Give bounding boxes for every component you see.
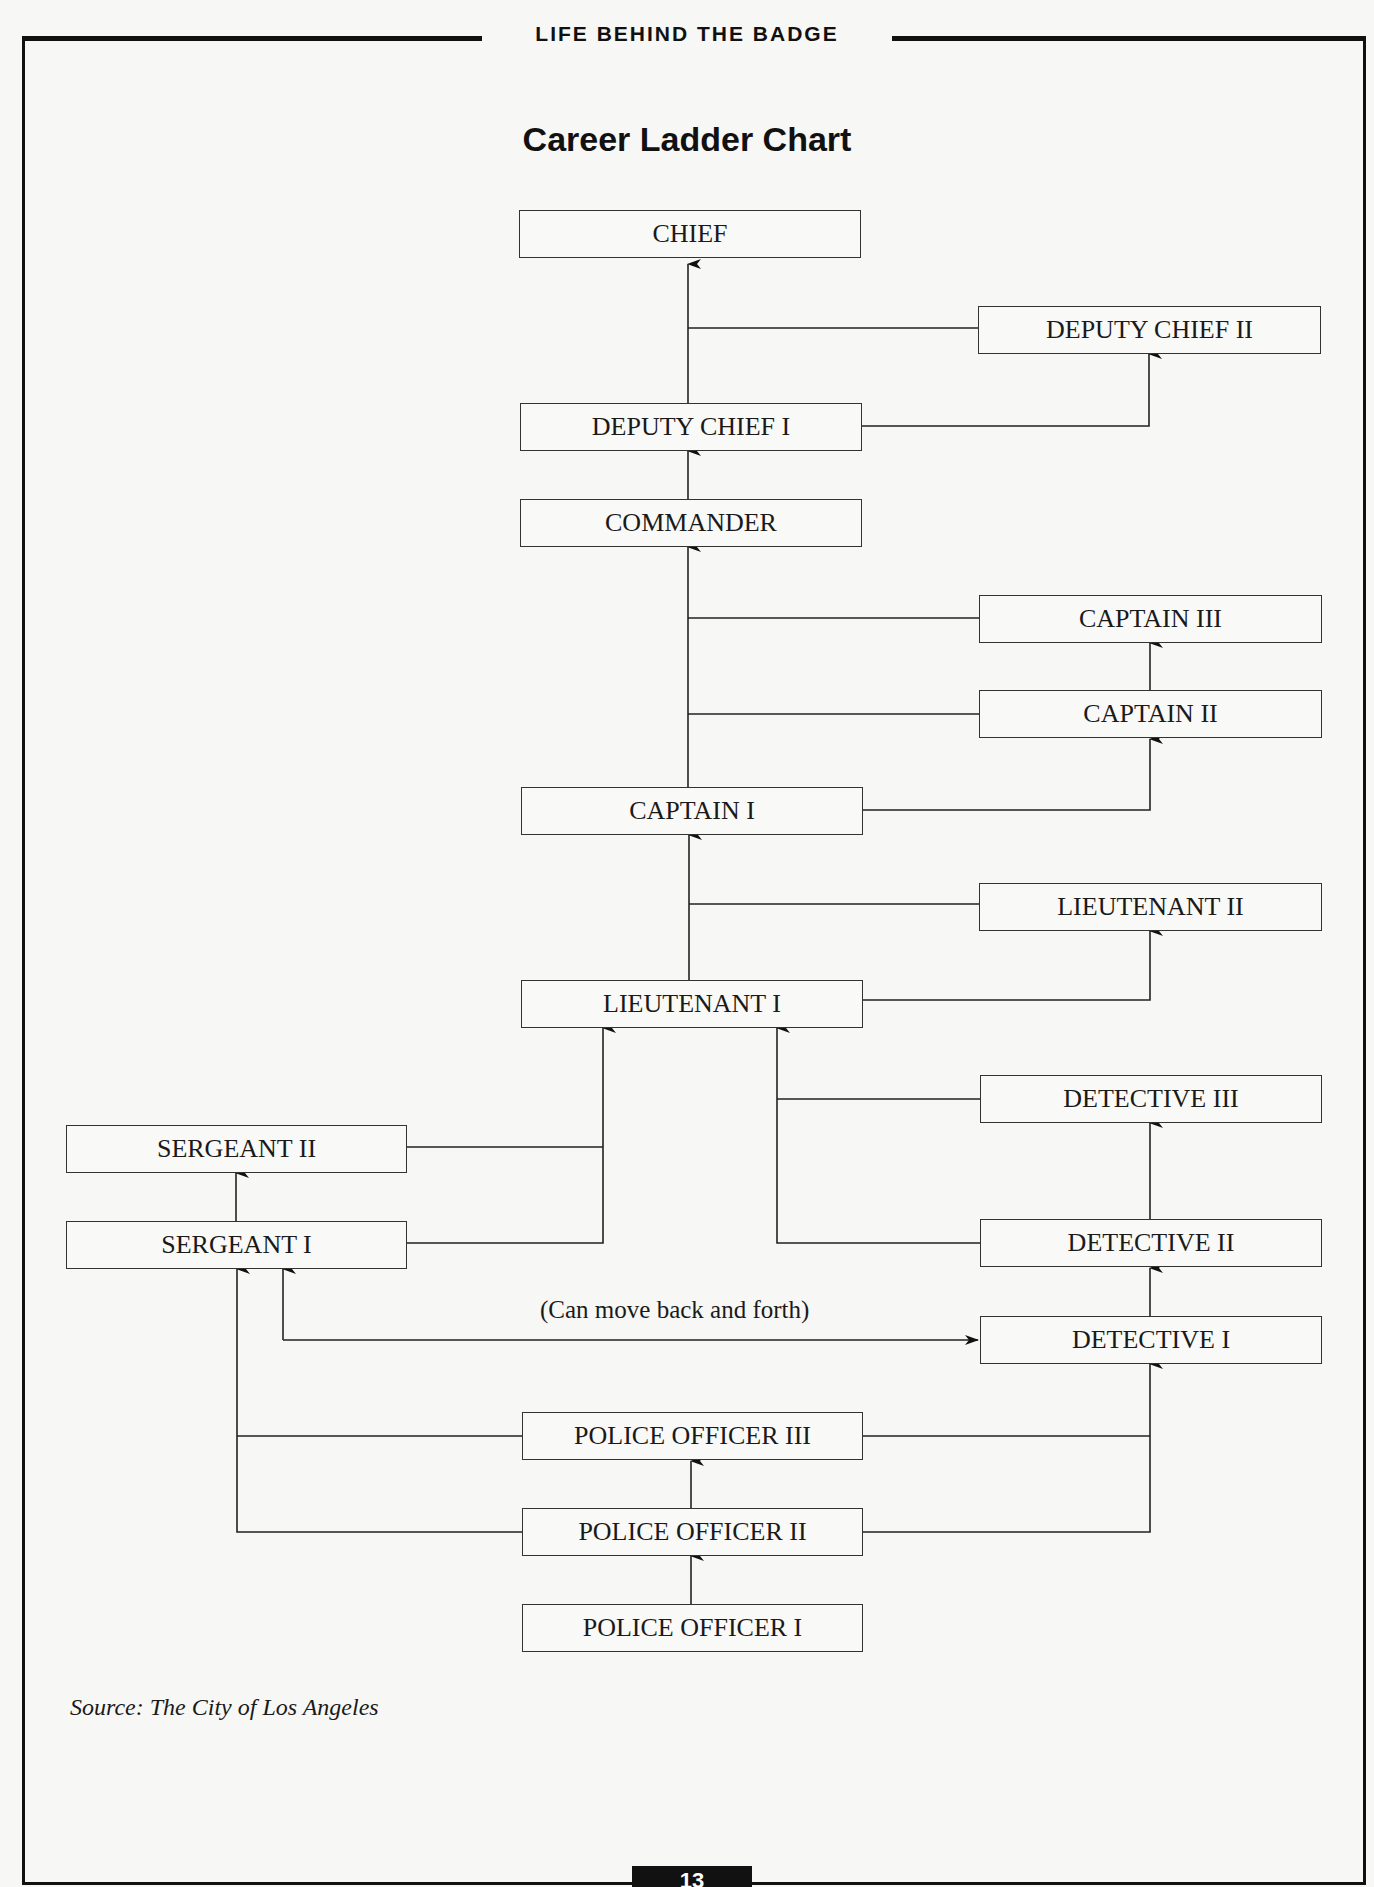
node-captain-3: CAPTAIN III <box>979 595 1322 643</box>
bidirectional-note: (Can move back and forth) <box>540 1296 809 1324</box>
node-detective-3: DETECTIVE III <box>980 1075 1322 1123</box>
node-police-officer-3: POLICE OFFICER III <box>522 1412 863 1460</box>
node-police-officer-2: POLICE OFFICER II <box>522 1508 863 1556</box>
node-detective-1: DETECTIVE I <box>980 1316 1322 1364</box>
node-deputy-chief-2: DEPUTY CHIEF II <box>978 306 1321 354</box>
node-captain-1: CAPTAIN I <box>521 787 863 835</box>
node-sergeant-2: SERGEANT II <box>66 1125 407 1173</box>
node-lieutenant-1: LIEUTENANT I <box>521 980 863 1028</box>
node-lieutenant-2: LIEUTENANT II <box>979 883 1322 931</box>
node-chief: CHIEF <box>519 210 861 258</box>
source-caption: Source: The City of Los Angeles <box>70 1694 379 1721</box>
node-police-officer-1: POLICE OFFICER I <box>522 1604 863 1652</box>
node-detective-2: DETECTIVE II <box>980 1219 1322 1267</box>
node-commander: COMMANDER <box>520 499 862 547</box>
node-captain-2: CAPTAIN II <box>979 690 1322 738</box>
node-sergeant-1: SERGEANT I <box>66 1221 407 1269</box>
page-number: 13 <box>632 1866 752 1887</box>
node-deputy-chief-1: DEPUTY CHIEF I <box>520 403 862 451</box>
